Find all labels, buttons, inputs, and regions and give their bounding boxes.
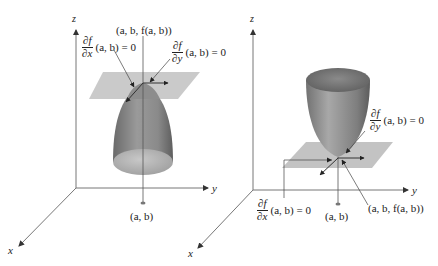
left-partial-x-fraction: ∂f ∂x bbox=[82, 35, 93, 59]
right-z-label: z bbox=[250, 14, 254, 24]
left-z-label: z bbox=[72, 14, 76, 24]
left-partial-y-fraction: ∂f ∂y bbox=[172, 40, 183, 64]
right-partial-y-fraction: ∂f ∂y bbox=[370, 108, 381, 132]
left-partial-y-label: ∂f ∂y (a, b) = 0 bbox=[172, 40, 226, 64]
right-y-label: y bbox=[412, 185, 417, 196]
figure: z y x (a, b, f(a, b)) ∂f ∂x (a, b) = 0 ∂… bbox=[0, 0, 438, 266]
right-partial-x-fraction: ∂f ∂x bbox=[257, 198, 268, 222]
right-partial-y-label: ∂f ∂y (a, b) = 0 bbox=[370, 108, 424, 132]
left-x-axis bbox=[19, 188, 76, 246]
left-x-label: x bbox=[8, 245, 13, 256]
right-base-point-label: (a, b) bbox=[325, 211, 348, 222]
right-surface-rim bbox=[306, 68, 370, 92]
right-partial-x-label: ∂f ∂x (a, b) = 0 bbox=[257, 198, 311, 222]
left-base-point-label: (a, b) bbox=[130, 211, 153, 222]
right-x-label: x bbox=[188, 248, 193, 259]
left-partial-x-label: ∂f ∂x (a, b) = 0 bbox=[82, 35, 136, 59]
right-base-point bbox=[336, 203, 341, 206]
left-base-point bbox=[141, 202, 146, 205]
left-y-label: y bbox=[212, 183, 217, 194]
right-x-axis bbox=[198, 190, 253, 248]
right-point-label: (a, b, f(a, b)) bbox=[368, 203, 424, 214]
